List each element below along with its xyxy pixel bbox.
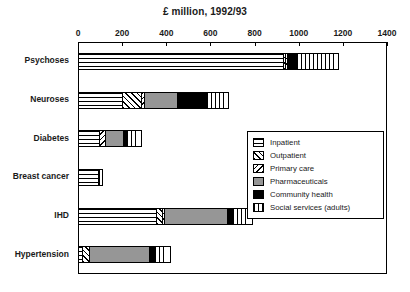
legend-label: Social services (adults) bbox=[270, 203, 350, 212]
bar-segment-community-health bbox=[98, 170, 100, 185]
bar-ihd bbox=[78, 208, 253, 225]
y-axis-tick-label: Hypertension bbox=[0, 249, 74, 259]
bar-segment-social-services-adults- bbox=[232, 209, 249, 224]
y-axis-tick-label: Diabetes bbox=[0, 133, 74, 143]
legend-swatch-pharmaceuticals bbox=[253, 177, 264, 186]
bar-segment-inpatient bbox=[79, 93, 123, 108]
bar-segment-pharmaceuticals bbox=[89, 247, 150, 262]
legend-label: Outpatient bbox=[270, 151, 306, 160]
y-axis-category-psychoses: Psychoses bbox=[0, 55, 74, 65]
bar-segment-inpatient bbox=[79, 131, 100, 146]
bar-segment-community-health bbox=[177, 93, 208, 108]
x-axis-tick bbox=[78, 42, 79, 46]
bar-segment-outpatient bbox=[122, 93, 142, 108]
legend-item: Outpatient bbox=[253, 149, 379, 161]
x-axis-tick-label: 400 bbox=[159, 28, 173, 38]
x-axis-tick-label: 600 bbox=[203, 28, 217, 38]
y-axis-category-breast-cancer: Breast cancer bbox=[0, 171, 74, 181]
legend-item: Primary care bbox=[253, 162, 379, 174]
bar-segment-inpatient bbox=[79, 54, 284, 69]
bar-segment-social-services-adults- bbox=[206, 93, 224, 108]
y-axis-category-neuroses: Neuroses bbox=[0, 94, 74, 104]
bar-segment-pharmaceuticals bbox=[144, 93, 177, 108]
y-axis-tick-label: Breast cancer bbox=[0, 171, 74, 181]
y-axis-category-ihd: IHD bbox=[0, 210, 74, 220]
legend-item: Inpatient bbox=[253, 136, 379, 148]
legend-swatch-social-services-adults- bbox=[253, 203, 264, 212]
bar-segment-social-services-adults- bbox=[126, 131, 138, 146]
y-axis-tick-label: Psychoses bbox=[0, 55, 74, 65]
bar-segment-social-services-adults- bbox=[296, 54, 336, 69]
x-axis-tick bbox=[210, 42, 211, 46]
legend-label: Primary care bbox=[270, 164, 314, 173]
legend-label: Inpatient bbox=[270, 138, 300, 147]
x-axis-tick-label: 200 bbox=[115, 28, 129, 38]
bar-segment-social-services-adults- bbox=[154, 247, 166, 262]
bar-breast-cancer bbox=[78, 169, 103, 186]
x-axis-tick-label: 0 bbox=[76, 28, 81, 38]
bar-neuroses bbox=[78, 92, 229, 109]
x-axis-tick bbox=[166, 42, 167, 46]
legend-item: Pharmaceuticals bbox=[253, 175, 379, 187]
legend-label: Pharmaceuticals bbox=[270, 177, 328, 186]
legend-swatch-community-health bbox=[253, 190, 264, 199]
x-axis-tick-label: 1400 bbox=[378, 28, 397, 38]
x-axis-tick bbox=[387, 42, 388, 46]
x-axis-tick-label: 800 bbox=[247, 28, 261, 38]
legend-item: Community health bbox=[253, 188, 379, 200]
bar-psychoses bbox=[78, 53, 339, 70]
y-axis-category-hypertension: Hypertension bbox=[0, 249, 74, 259]
bar-segment-pharmaceuticals bbox=[105, 131, 125, 146]
chart-title: £ million, 1992/93 bbox=[0, 6, 410, 17]
bar-segment-inpatient bbox=[79, 209, 157, 224]
bar-segment-inpatient bbox=[79, 170, 99, 185]
bar-hypertension bbox=[78, 246, 171, 263]
bar-diabetes bbox=[78, 130, 142, 147]
x-axis-tick bbox=[343, 42, 344, 46]
y-axis-tick-label: Neuroses bbox=[0, 94, 74, 104]
bar-segment-pharmaceuticals bbox=[164, 209, 228, 224]
chart-container: £ million, 1992/93 020040060080010001200… bbox=[0, 0, 410, 292]
y-axis-category-diabetes: Diabetes bbox=[0, 133, 74, 143]
x-axis-tick-label: 1000 bbox=[289, 28, 308, 38]
legend-swatch-inpatient bbox=[253, 138, 264, 147]
legend-label: Community health bbox=[270, 190, 333, 199]
chart-legend: InpatientOutpatientPrimary carePharmaceu… bbox=[247, 131, 384, 219]
legend-item: Social services (adults) bbox=[253, 201, 379, 213]
x-axis-tick bbox=[299, 42, 300, 46]
legend-swatch-primary-care bbox=[253, 164, 264, 173]
x-axis-tick bbox=[255, 42, 256, 46]
x-axis-tick bbox=[122, 42, 123, 46]
y-axis-tick-label: IHD bbox=[0, 210, 74, 220]
legend-swatch-outpatient bbox=[253, 151, 264, 160]
x-axis-tick-label: 1200 bbox=[333, 28, 352, 38]
